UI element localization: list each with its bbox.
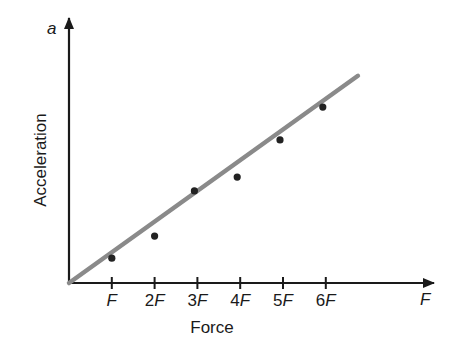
data-points xyxy=(108,103,326,261)
x-tick-label: 6F xyxy=(316,291,337,310)
x-tick-label: 4F xyxy=(230,291,251,310)
y-axis-title: Acceleration xyxy=(31,113,50,207)
data-point xyxy=(276,136,283,143)
x-tick-label: F xyxy=(107,291,119,310)
x-axis-title: Force xyxy=(190,318,233,337)
y-axis-symbol: a xyxy=(47,19,56,38)
data-point xyxy=(234,173,241,180)
data-point xyxy=(108,255,115,262)
data-point xyxy=(151,232,158,239)
x-tick-label: 5F xyxy=(273,291,294,310)
force-acceleration-chart: F2F3F4F5F6F a F Force Acceleration xyxy=(0,0,456,359)
best-fit-line xyxy=(69,76,358,283)
data-point xyxy=(319,103,326,110)
x-axis-symbol: F xyxy=(420,290,432,309)
data-point xyxy=(191,187,198,194)
x-tick-label: 2F xyxy=(145,291,166,310)
x-tick-label: 3F xyxy=(187,291,208,310)
